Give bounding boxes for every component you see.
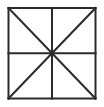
square-eight-triangles-diagram <box>0 0 104 107</box>
figure-line-group <box>9 8 96 99</box>
geometric-figure-canvas <box>0 0 104 107</box>
